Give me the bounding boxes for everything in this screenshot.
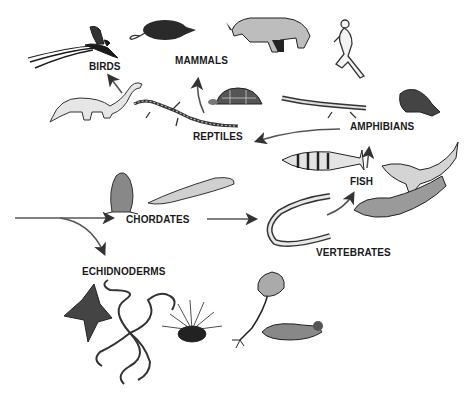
rhinoceros-illustration	[226, 18, 310, 52]
starfish-illustration	[64, 284, 112, 342]
rat-illustration	[130, 20, 196, 40]
arrow-reptiles-to-mammals	[198, 80, 204, 113]
label-fish: FISH	[350, 176, 373, 187]
striped-perch-illustration	[282, 150, 364, 170]
sauropod-illustration	[50, 83, 142, 122]
tortoise-illustration	[208, 88, 262, 105]
diagram-artwork	[0, 0, 474, 400]
sea-cucumber-illustration	[262, 321, 323, 340]
running-human-illustration	[334, 20, 364, 78]
label-amphibians: AMPHIBIANS	[350, 121, 414, 132]
arrow-vertebrates-to-fish	[327, 194, 353, 215]
label-birds: BIRDS	[89, 61, 121, 72]
arrow-reptiles-to-birds	[109, 76, 122, 93]
label-mammals: MAMMALS	[175, 55, 228, 66]
arrow-origin-to-echinoderms	[60, 218, 104, 253]
salamander-illustration	[282, 98, 366, 118]
sea-squirt-illustration	[104, 173, 138, 214]
frog-illustration	[400, 90, 440, 117]
arrow-fish-to-amphibians	[367, 149, 369, 168]
evolution-diagram: BIRDS MAMMALS REPTILES AMPHIBIANS FISH C…	[0, 0, 474, 400]
label-chordates: CHORDATES	[126, 214, 190, 225]
label-echinoderms: ECHIDNODERMS	[82, 266, 165, 277]
label-vertebrates: VERTEBRATES	[316, 247, 391, 258]
sea-urchin-illustration	[162, 300, 222, 342]
label-reptiles: REPTILES	[193, 131, 243, 142]
brittle-star-illustration	[96, 280, 174, 384]
lizard-illustration	[134, 101, 238, 126]
lamprey-illustration	[270, 196, 330, 244]
lancelet-illustration	[148, 178, 234, 204]
arrow-amphibians-to-reptiles	[257, 129, 340, 141]
